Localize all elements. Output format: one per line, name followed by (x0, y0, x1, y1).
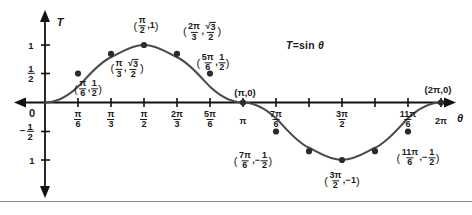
point-label-pi-zero: (π,0) (234, 88, 256, 98)
y-tick-lower-one: 1 (29, 155, 34, 166)
data-point (339, 157, 345, 163)
y-tick-neg-half-sign: − (20, 125, 26, 136)
y-tick-half: 1 2 (27, 63, 35, 83)
equation-lhs: T (286, 39, 293, 51)
x-tick-2pi-over-3: 2π3 (170, 110, 185, 129)
y-tick-half-num: 1 (27, 63, 34, 73)
data-point (174, 51, 180, 57)
x-tick-pi-over-3: π3 (106, 110, 116, 129)
sine-graph-figure: T θ 0 T=sin θ 1 1 2 − 1 2 1 π6 π3 π2 2π3… (0, 0, 472, 215)
y-tick-one: 1 (28, 40, 33, 51)
equation-function: sin (299, 39, 315, 51)
point-label-3pi-2: (3π2,−1) (324, 171, 360, 190)
data-point (141, 42, 147, 48)
x-tick-7pi-over-6: 7π6 (269, 110, 284, 129)
y-axis (40, 10, 50, 198)
data-point (108, 51, 114, 57)
y-tick-neg-half-num: 1 (26, 121, 33, 131)
equation-variable: θ (318, 39, 324, 51)
y-tick-neg-half: − 1 2 (20, 121, 34, 141)
point-label-5pi-6: (5π6,12) (197, 53, 230, 72)
y-tick-one-text: 1 (28, 40, 33, 51)
point-label-pi-2: (π2,1) (134, 16, 159, 35)
x-tick-pi-over-6: π6 (73, 110, 83, 129)
point-label-2pi-3: (2π3,√32) (183, 22, 221, 42)
data-point (75, 70, 81, 76)
x-tick-11pi-over-6: 11π6 (398, 110, 417, 129)
y-tick-lower-one-text: 1 (29, 155, 34, 166)
point-label-pi-3: (π3,√32) (110, 59, 143, 79)
data-point (240, 99, 246, 105)
bottom-divider (0, 201, 472, 202)
y-tick-half-den: 2 (27, 73, 34, 84)
x-tick-5pi-over-6: 5π6 (203, 110, 218, 129)
data-point (372, 148, 378, 154)
point-label-7pi-6: (7π6,−12) (234, 151, 273, 170)
point-label-2pi-zero: (2π,0) (425, 85, 452, 95)
y-tick-neg-half-den: 2 (26, 131, 33, 142)
x-tick-2pi: 2π (435, 116, 447, 126)
graph-canvas (0, 0, 472, 215)
x-axis-label: θ (457, 112, 463, 124)
origin-label: 0 (29, 107, 35, 119)
y-axis-label: T (57, 16, 64, 28)
point-label-11pi-6: (11π6,−12) (396, 148, 439, 167)
x-tick-pi: π (240, 116, 247, 126)
data-point (438, 99, 444, 105)
x-tick-3pi-over-2: 3π2 (335, 110, 350, 129)
data-point (306, 148, 312, 154)
point-label-pi-6: (π6,12) (74, 79, 102, 98)
equation-label: T=sin θ (286, 39, 324, 51)
x-tick-pi-over-2: π2 (139, 110, 149, 129)
